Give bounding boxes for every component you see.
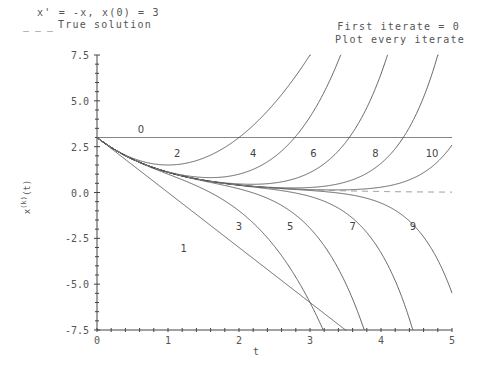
x-tick-label: 2 (236, 335, 242, 346)
curve-label-6: 6 (310, 148, 316, 159)
x-axis-label: t (253, 346, 259, 357)
curve-label-1: 1 (180, 243, 186, 254)
y-tick-label: -7.5 (65, 325, 89, 336)
curve-label-8: 8 (372, 148, 378, 159)
plot-area: 7.55.02.50.0-2.5-5.0-7.5012345 012345678… (0, 0, 478, 376)
true-solution-curve (97, 138, 452, 193)
curve-label-0: 0 (138, 124, 144, 135)
y-tick-label: 0.0 (71, 188, 89, 199)
axes: 7.55.02.50.0-2.5-5.0-7.5012345 (65, 50, 455, 346)
y-tick-label: -5.0 (65, 279, 89, 290)
curve-label-5: 5 (287, 221, 293, 232)
x-tick-label: 0 (94, 335, 100, 346)
x-tick-label: 3 (307, 335, 313, 346)
curve-label-7: 7 (349, 221, 355, 232)
curve-label-4: 4 (250, 148, 256, 159)
svg-text:x(k)(t): x(k)(t) (20, 180, 32, 214)
curve-label-2: 2 (174, 148, 180, 159)
iterate-curve-8 (97, 55, 439, 188)
y-tick-label: 2.5 (71, 142, 89, 153)
iterate-curve-7 (97, 138, 413, 331)
x-tick-label: 1 (165, 335, 171, 346)
iterate-curve-9 (97, 138, 452, 293)
iterate-curve-3 (97, 138, 323, 331)
curve-label-9: 9 (410, 221, 416, 232)
curve-label-3: 3 (236, 221, 242, 232)
iterate-curve-5 (97, 138, 365, 331)
y-tick-label: -2.5 (65, 233, 89, 244)
curve-label-10: 10 (426, 148, 439, 159)
iterate-curves (97, 55, 452, 330)
x-tick-label: 4 (378, 335, 384, 346)
x-tick-label: 5 (449, 335, 455, 346)
y-tick-label: 5.0 (71, 96, 89, 107)
iterate-curve-6 (97, 55, 388, 184)
y-axis-label: x(k)(t) (20, 180, 32, 214)
iterate-curve-2 (97, 55, 311, 165)
y-tick-label: 7.5 (71, 50, 89, 61)
